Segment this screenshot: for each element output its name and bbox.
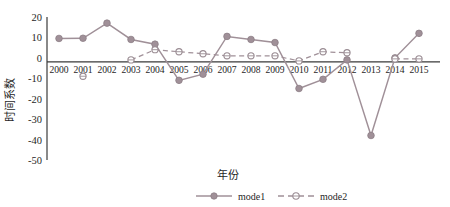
data-point-mode1-2001[interactable]	[80, 35, 87, 42]
data-point-mode1-2012[interactable]	[344, 57, 351, 64]
x-tick-label: 2010	[289, 64, 308, 75]
y-tick-label: 10	[32, 32, 43, 43]
data-point-mode1-2015[interactable]	[416, 30, 423, 37]
series-mode1	[56, 20, 423, 139]
x-tick-label: 2009	[265, 64, 284, 75]
legend-item-mode2[interactable]: mode2	[278, 191, 347, 202]
data-point-mode1-2007[interactable]	[224, 33, 231, 40]
y-axis-title: 时间系数	[4, 78, 16, 122]
legend-item-mode1[interactable]: mode1	[196, 191, 265, 202]
series-line-mode1	[59, 23, 419, 135]
y-tick-label: -10	[28, 73, 42, 84]
y-tick-label: -50	[28, 155, 42, 166]
x-tick-label: 2008	[241, 64, 260, 75]
y-tick-label: -30	[28, 114, 42, 125]
data-point-mode1-2009[interactable]	[272, 39, 279, 46]
x-tick-label: 2002	[97, 64, 116, 75]
data-point-mode1-2005[interactable]	[176, 77, 183, 84]
data-point-mode1-2011[interactable]	[320, 76, 327, 83]
x-tick-label: 2014	[385, 64, 404, 75]
y-tick-label: 0	[37, 53, 42, 64]
x-tick-labels: 2000 2001 2002 2003 2004 2005 2006 2007 …	[49, 64, 428, 75]
series-line-mode2	[131, 50, 347, 61]
data-point-mode1-2008[interactable]	[248, 36, 255, 43]
legend-label-mode1: mode1	[238, 191, 265, 202]
legend-label-mode2: mode2	[320, 191, 347, 202]
data-point-mode1-2010[interactable]	[296, 85, 303, 92]
x-tick-label: 2000	[49, 64, 68, 75]
data-point-mode1-2003[interactable]	[128, 36, 135, 43]
x-axis-title: 年份	[217, 168, 239, 181]
x-tick-label: 2004	[145, 64, 164, 75]
y-tick-label: 20	[32, 12, 43, 23]
data-point-mode1-2000[interactable]	[56, 35, 63, 42]
x-tick-label: 2015	[409, 64, 428, 75]
x-tick-label: 2003	[121, 64, 140, 75]
data-point-mode1-2006[interactable]	[200, 71, 207, 78]
x-tick-label: 2007	[217, 64, 236, 75]
y-tick-labels: 20 10 0 -10 -20 -30 -40 -50	[28, 12, 42, 166]
time-coefficient-line-chart: 20 10 0 -10 -20 -30 -40 -50 时间系数 2000 20…	[0, 0, 450, 207]
chart-legend: mode1 mode2	[196, 191, 347, 202]
data-point-mode1-2013[interactable]	[368, 132, 375, 139]
legend-marker-mode1	[211, 193, 217, 199]
chart-canvas: 20 10 0 -10 -20 -30 -40 -50 时间系数 2000 20…	[0, 0, 450, 207]
x-tick-label: 2013	[361, 64, 380, 75]
y-tick-label: -40	[28, 135, 42, 146]
y-tick-label: -20	[28, 94, 42, 105]
data-point-mode1-2002[interactable]	[104, 20, 111, 27]
data-series-layer	[56, 20, 423, 139]
